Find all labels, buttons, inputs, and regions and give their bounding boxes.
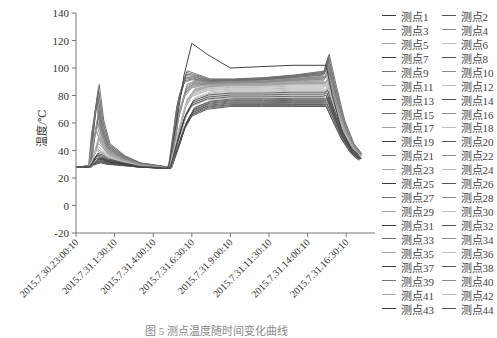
legend-line-icon	[382, 15, 396, 16]
legend-line-icon	[442, 252, 456, 253]
series-lines	[76, 43, 362, 168]
legend-item: 测点5	[382, 37, 438, 51]
legend-line-icon	[382, 57, 396, 58]
legend-item: 测点11	[382, 79, 438, 93]
legend-item: 测点29	[382, 204, 438, 218]
legend-line-icon	[382, 99, 396, 100]
legend-line-icon	[382, 266, 396, 267]
legend-item: 测点20	[442, 134, 497, 148]
legend-line-icon	[382, 71, 396, 72]
legend-item: 测点38	[442, 260, 497, 274]
series-line	[78, 56, 361, 168]
legend-line-icon	[442, 141, 456, 142]
legend-line-icon	[382, 238, 396, 239]
y-tick-label: -20	[54, 227, 69, 239]
legend-line-icon	[442, 169, 456, 170]
legend-line-icon	[442, 113, 456, 114]
legend-item: 测点17	[382, 121, 438, 135]
legend-line-icon	[382, 211, 396, 212]
legend-item: 测点39	[382, 274, 438, 288]
legend-item: 测点41	[382, 288, 438, 302]
legend-item: 测点4	[442, 23, 497, 37]
legend-line-icon	[382, 183, 396, 184]
legend-line-icon	[382, 252, 396, 253]
legend-line-icon	[382, 197, 396, 198]
legend-item: 测点30	[442, 204, 497, 218]
legend-line-icon	[382, 29, 396, 30]
legend-line-icon	[442, 43, 456, 44]
legend-line-icon	[442, 266, 456, 267]
legend-item: 测点18	[442, 121, 497, 135]
legend-line-icon	[442, 85, 456, 86]
legend-line-icon	[442, 155, 456, 156]
legend-item: 测点31	[382, 218, 438, 232]
legend-line-icon	[442, 99, 456, 100]
legend-line-icon	[382, 113, 396, 114]
legend-item: 测点19	[382, 134, 438, 148]
legend-line-icon	[382, 280, 396, 281]
legend-item: 测点1	[382, 9, 438, 23]
legend-line-icon	[442, 211, 456, 212]
legend-label: 测点43	[401, 301, 434, 317]
legend-item: 测点14	[442, 93, 497, 107]
legend-item: 测点27	[382, 190, 438, 204]
legend-item: 测点37	[382, 260, 438, 274]
legend-item: 测点28	[442, 190, 497, 204]
legend-line-icon	[382, 169, 396, 170]
legend-item: 测点16	[442, 107, 497, 121]
axes: -200204060801001201402015.7.30.23:00:102…	[17, 7, 375, 300]
legend-line-icon	[382, 85, 396, 86]
y-tick-label: 80	[58, 90, 70, 102]
legend-item: 测点2	[442, 9, 497, 23]
y-tick-label: 60	[58, 117, 70, 129]
legend-line-icon	[442, 280, 456, 281]
legend: 测点1测点2测点3测点4测点5测点6测点7测点8测点9测点10测点11测点12测…	[382, 9, 497, 316]
legend-line-icon	[382, 43, 396, 44]
legend-line-icon	[382, 294, 396, 295]
legend-item: 测点26	[442, 176, 497, 190]
legend-item: 测点43	[382, 302, 438, 316]
legend-line-icon	[382, 155, 396, 156]
legend-item: 测点13	[382, 93, 438, 107]
legend-item: 测点21	[382, 148, 438, 162]
legend-item: 测点42	[442, 288, 497, 302]
legend-line-icon	[442, 308, 456, 309]
legend-item: 测点10	[442, 65, 497, 79]
legend-item: 测点22	[442, 148, 497, 162]
legend-item: 测点34	[442, 232, 497, 246]
legend-line-icon	[382, 225, 396, 226]
legend-item: 测点35	[382, 246, 438, 260]
figure-caption: 图 5 测点温度随时间变化曲线	[145, 322, 288, 338]
legend-item: 测点8	[442, 51, 497, 65]
legend-line-icon	[382, 141, 396, 142]
legend-line-icon	[442, 71, 456, 72]
y-tick-label: 120	[53, 35, 70, 47]
legend-item: 测点44	[442, 302, 497, 316]
y-tick-label: 20	[58, 172, 70, 184]
legend-item: 测点3	[382, 23, 438, 37]
legend-line-icon	[442, 238, 456, 239]
legend-line-icon	[442, 15, 456, 16]
y-axis-title: 温度/℃	[35, 109, 48, 146]
y-tick-label: 140	[53, 7, 70, 19]
legend-item: 测点36	[442, 246, 497, 260]
legend-line-icon	[442, 29, 456, 30]
legend-item: 测点15	[382, 107, 438, 121]
legend-item: 测点6	[442, 37, 497, 51]
legend-line-icon	[442, 57, 456, 58]
legend-label: 测点44	[461, 301, 494, 317]
legend-line-icon	[382, 308, 396, 309]
legend-line-icon	[442, 127, 456, 128]
legend-item: 测点12	[442, 79, 497, 93]
legend-item: 测点40	[442, 274, 497, 288]
y-tick-label: 40	[58, 145, 70, 157]
legend-line-icon	[382, 127, 396, 128]
legend-item: 测点25	[382, 176, 438, 190]
legend-item: 测点9	[382, 65, 438, 79]
legend-item: 测点23	[382, 162, 438, 176]
series-line	[79, 54, 362, 167]
y-tick-label: 100	[53, 62, 70, 74]
legend-line-icon	[442, 197, 456, 198]
legend-line-icon	[442, 225, 456, 226]
legend-line-icon	[442, 183, 456, 184]
